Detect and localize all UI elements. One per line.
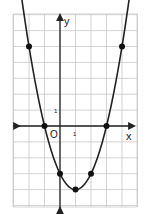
origin-label: O bbox=[50, 129, 58, 140]
y-tick-label-1: 1 bbox=[54, 108, 58, 114]
data-point bbox=[88, 171, 94, 177]
y-axis-label: y bbox=[64, 15, 70, 27]
data-point bbox=[104, 123, 110, 129]
grid-lines bbox=[13, 14, 138, 207]
data-point bbox=[57, 171, 63, 177]
parabola-graph: x y O 1 1 bbox=[0, 0, 145, 219]
data-point bbox=[42, 123, 48, 129]
x-axis-label: x bbox=[126, 130, 132, 142]
axes bbox=[17, 17, 132, 210]
data-point bbox=[73, 187, 79, 193]
data-point bbox=[119, 44, 125, 50]
x-tick-label-1: 1 bbox=[73, 131, 77, 137]
data-point bbox=[26, 44, 32, 50]
